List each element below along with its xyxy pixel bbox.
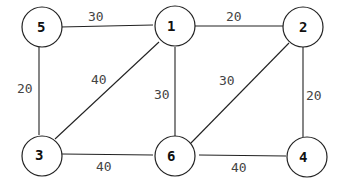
edge-2-6: 30: [190, 43, 289, 144]
node-4: 4: [287, 137, 327, 177]
weighted-graph: 30 20 20 40 30 30 20 40 40 5 1: [0, 0, 347, 188]
node-label: 4: [299, 149, 307, 165]
edge-weight: 20: [17, 81, 33, 96]
edge-weight: 20: [306, 88, 322, 103]
node-6: 6: [155, 136, 195, 176]
node-2: 2: [283, 7, 323, 47]
edge-weight: 40: [231, 160, 247, 175]
edge-weight: 20: [226, 9, 242, 24]
edge-weight: 40: [91, 72, 107, 87]
edge-2-4: 20: [303, 47, 322, 137]
edge-weight: 30: [219, 73, 235, 88]
node-3: 3: [22, 136, 62, 176]
edge-weight: 30: [154, 87, 170, 102]
edge-1-2: 20: [193, 9, 283, 26]
node-label: 2: [299, 19, 307, 35]
node-label: 6: [167, 148, 175, 164]
node-label: 3: [35, 147, 43, 163]
edge-1-3: 40: [55, 42, 159, 139]
edge-6-4: 40: [199, 155, 286, 175]
edge-weight: 30: [88, 9, 104, 24]
edge-5-1: 30: [60, 9, 153, 27]
edge-3-6: 40: [62, 154, 153, 174]
edge-1-6: 30: [154, 47, 175, 136]
node-1: 1: [155, 6, 195, 46]
node-5: 5: [22, 7, 62, 47]
edge-5-3: 20: [17, 47, 39, 135]
edge-weight: 40: [96, 159, 112, 174]
node-label: 5: [37, 19, 45, 35]
node-label: 1: [167, 18, 175, 34]
